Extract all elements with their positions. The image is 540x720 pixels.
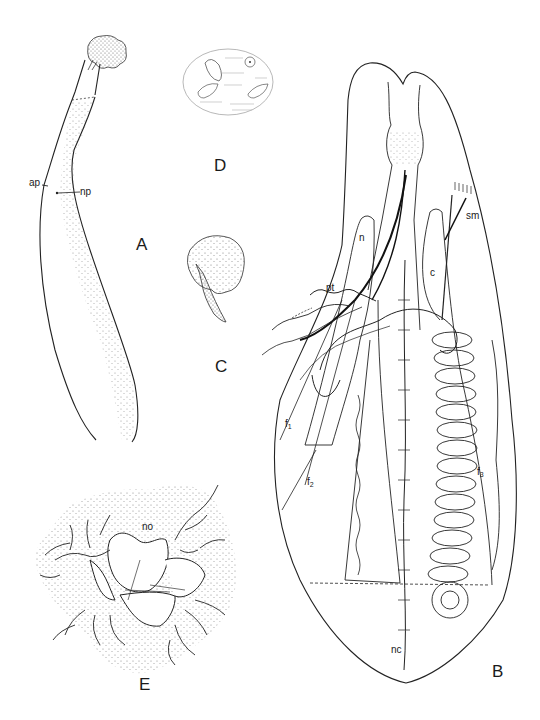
part-label-ap: ap [29,178,40,188]
part-label-f1: f1 [285,419,292,430]
part-label-nc: nc [391,645,402,655]
figure-label-d: D [214,157,226,174]
figure-label-b: B [492,663,503,680]
part-label-c: c [430,268,435,278]
figure-label-c: C [215,358,227,375]
figure-label-a: A [136,236,147,253]
part-label-n: n [359,233,365,243]
part-label-f2: f2 [307,477,314,488]
figure-e-drawing [35,485,236,673]
plate-illustration [0,0,540,720]
figure-b-drawing [262,63,516,683]
figure-d-drawing [183,49,273,115]
part-label-sm: sm [466,211,479,221]
part-label-np: np [80,187,91,197]
part-label-no: no [142,522,153,532]
figure-label-e: E [139,676,150,693]
figure-a-drawing [40,36,138,443]
part-label-f3: f3 [477,467,484,478]
part-label-pt: pt [326,283,334,293]
figure-c-drawing [187,236,244,322]
